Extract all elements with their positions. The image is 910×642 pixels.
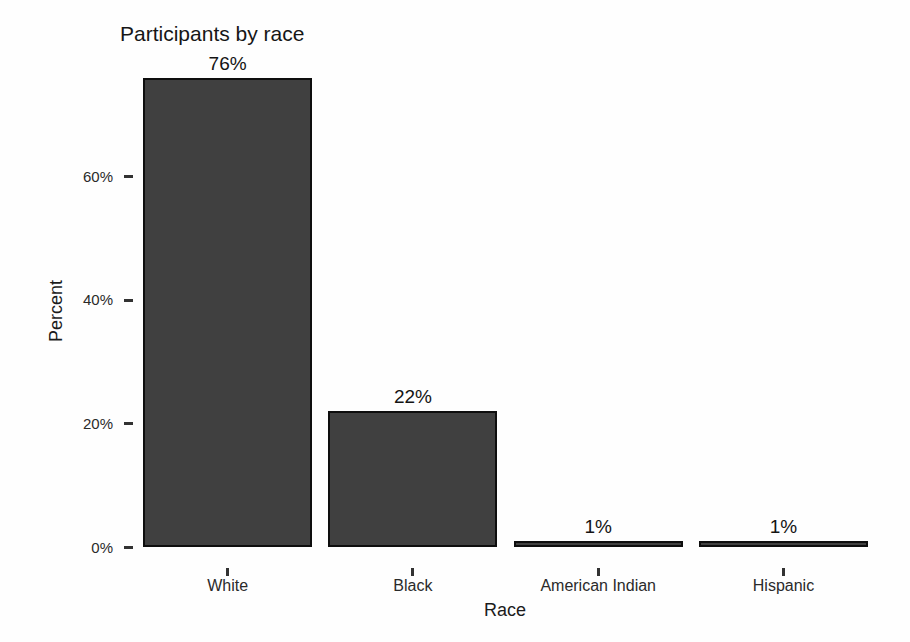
- bar-american-indian: [514, 541, 683, 547]
- x-tick-mark: [597, 568, 600, 576]
- bar-black: [328, 411, 497, 547]
- plot-area: 0%20%40%60%76%White22%Black1%American In…: [0, 0, 910, 642]
- y-tick-mark: [124, 422, 133, 425]
- x-tick-label: White: [138, 577, 318, 595]
- bar-value-label: 1%: [553, 517, 643, 537]
- y-tick-label: 60%: [38, 168, 113, 186]
- y-tick-mark: [124, 299, 133, 302]
- bar-hispanic: [699, 541, 868, 547]
- x-tick-label: Hispanic: [694, 577, 874, 595]
- x-tick-mark: [782, 568, 785, 576]
- bar-white: [143, 78, 312, 548]
- bar-chart-figure: Participants by race Percent Race 0%20%4…: [0, 0, 910, 642]
- y-tick-label: 20%: [38, 415, 113, 433]
- bar-value-label: 76%: [183, 54, 273, 74]
- x-tick-label: Black: [323, 577, 503, 595]
- bar-value-label: 22%: [368, 387, 458, 407]
- y-tick-mark: [124, 546, 133, 549]
- bar-value-label: 1%: [739, 517, 829, 537]
- x-tick-mark: [226, 568, 229, 576]
- x-tick-label: American Indian: [508, 577, 688, 595]
- y-tick-label: 0%: [38, 539, 113, 557]
- y-tick-mark: [124, 175, 133, 178]
- y-tick-label: 40%: [38, 291, 113, 309]
- x-tick-mark: [411, 568, 414, 576]
